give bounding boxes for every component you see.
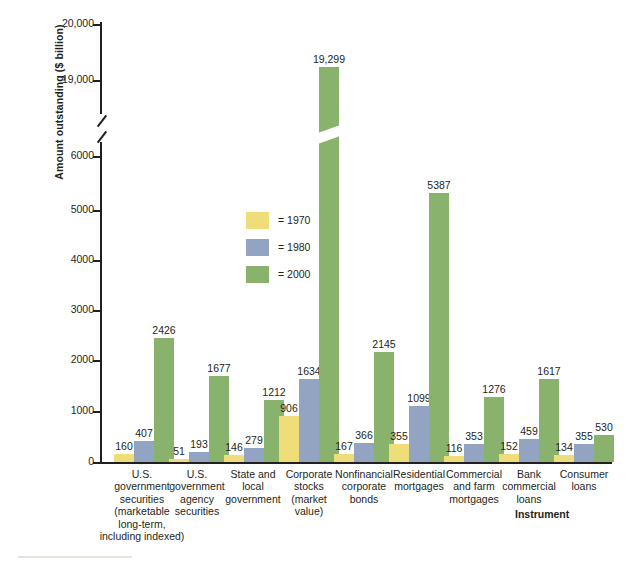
bar-1980[interactable]: 1634: [299, 379, 319, 462]
legend-label: = 1980: [278, 241, 310, 253]
y-tick-label: 1000: [71, 404, 94, 416]
category-line: loans: [534, 480, 630, 492]
bar-value-label: 160: [115, 440, 133, 452]
bar-1970[interactable]: 355: [389, 444, 409, 462]
bar-1980[interactable]: 407: [134, 441, 154, 462]
legend-swatch-2000: [246, 266, 269, 283]
bar-value-label: 530: [595, 421, 613, 433]
bar-value-label: 355: [575, 430, 593, 442]
bar-value-label: 355: [390, 430, 408, 442]
bar-1970[interactable]: 167: [334, 454, 354, 462]
bar-1970[interactable]: 51: [169, 459, 189, 462]
category-line: long-term,: [76, 518, 208, 530]
bar-value-label: 459: [520, 425, 538, 437]
legend-label: = 2000: [278, 268, 310, 280]
x-axis-title: Instrument: [515, 508, 569, 520]
category-line: including indexed): [76, 530, 208, 542]
bar-value-label: 134: [555, 441, 573, 453]
bar-1980[interactable]: 353: [464, 444, 484, 462]
y-tick-label: 0: [88, 455, 94, 467]
bar-value-label: 353: [465, 430, 483, 442]
bar-1980[interactable]: 279: [244, 448, 264, 462]
y-tick-label: 6000: [71, 149, 94, 161]
bar-chart-figure: Amount outstanding ($ billion) 20,000 19…: [0, 0, 630, 563]
bar-value-label: 407: [135, 427, 153, 439]
bar-value-label: 366: [355, 429, 373, 441]
bar-1970[interactable]: 146: [224, 455, 244, 462]
bar-2000[interactable]: 1276: [484, 397, 504, 462]
bar-value-label: 5387: [427, 179, 450, 191]
bar-value-label: 906: [280, 402, 298, 414]
bar-value-label: 1677: [207, 362, 230, 374]
bar-1970[interactable]: 906: [279, 416, 299, 462]
bar-1980[interactable]: 1099: [409, 406, 429, 462]
bar-value-label: 152: [500, 440, 518, 452]
bar-value-label: 1634: [297, 365, 320, 377]
bar-value-label: 193: [190, 438, 208, 450]
category-label-8: Consumer loans: [534, 468, 630, 493]
bar-value-label: 1617: [537, 365, 560, 377]
y-tick-label: 20,000: [62, 17, 94, 29]
bar-value-label: 19,299: [313, 53, 345, 65]
y-axis-title: Amount outstanding ($ billion): [53, 0, 65, 207]
bar-value-label: 2426: [152, 324, 175, 336]
bar-1980[interactable]: 459: [519, 439, 539, 462]
bar-1980[interactable]: 355: [574, 444, 594, 462]
category-line: Consumer: [534, 468, 630, 480]
x-axis-line: [100, 462, 612, 464]
bar-value-label: 116: [446, 442, 463, 454]
bar-1970[interactable]: 116: [444, 456, 464, 462]
bar-2000[interactable]: 2426: [154, 338, 174, 462]
legend-swatch-1970: [246, 212, 269, 229]
category-line: loans: [479, 493, 579, 505]
category-line: value): [264, 505, 354, 517]
plot-area: 20,000 19,000 6000 5000 4000 3000 2000: [100, 22, 612, 464]
category-line: securities: [142, 505, 252, 517]
bar-1980[interactable]: 193: [189, 452, 209, 462]
y-axis-line: [100, 22, 102, 464]
bar-2000[interactable]: 530: [594, 435, 614, 462]
bar-value-label: 146: [225, 441, 243, 453]
bar-value-label: 51: [173, 445, 185, 457]
bar-value-label: 279: [245, 434, 263, 446]
y-tick-label: 3000: [71, 303, 94, 315]
legend-label: = 1970: [278, 214, 310, 226]
bar-value-label: 2145: [372, 338, 395, 350]
bar-1970[interactable]: 160: [114, 454, 134, 462]
bar-1980[interactable]: 366: [354, 443, 374, 462]
category-line: bonds: [312, 493, 416, 505]
bar-value-label: 1099: [407, 392, 430, 404]
bar-2000[interactable]: 5387: [429, 193, 449, 462]
bar-value-label: 1212: [262, 386, 285, 398]
legend-swatch-1980: [246, 239, 269, 256]
bar-value-label: 167: [335, 440, 353, 452]
bar-1970[interactable]: 134: [554, 455, 574, 462]
bar-value-label: 1276: [482, 383, 505, 395]
footer-rule: [18, 556, 132, 558]
y-tick-label: 2000: [71, 353, 94, 365]
y-tick-label: 5000: [71, 203, 94, 215]
bar-1970[interactable]: 152: [499, 454, 519, 462]
y-tick-label: 4000: [71, 253, 94, 265]
bar-axis-break-notch: [317, 125, 341, 145]
y-tick-label: 19,000: [62, 73, 94, 85]
bar-2000[interactable]: 19,299: [319, 67, 339, 462]
